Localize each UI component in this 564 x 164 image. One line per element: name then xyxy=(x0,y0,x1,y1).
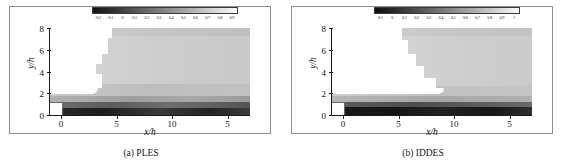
x-axis-label: x/h xyxy=(332,127,532,137)
y-tick: 8 xyxy=(329,28,333,29)
y-tick-label: 8 xyxy=(322,24,327,34)
y-tick: 2 xyxy=(329,93,333,94)
y-tick-label: 4 xyxy=(40,68,45,78)
x-axis-label: x/h xyxy=(50,127,250,137)
y-tick: 4 xyxy=(329,72,333,73)
wall-band xyxy=(332,107,532,115)
wall-band xyxy=(50,108,250,115)
field-core-region xyxy=(50,54,102,64)
x-tick xyxy=(228,115,229,119)
step-geometry-block xyxy=(50,102,63,115)
y-axis-label: y/h xyxy=(26,57,36,69)
colorbar-tick: 0.9 xyxy=(499,15,504,21)
colorbar-tick: 0.6 xyxy=(463,15,468,21)
colorbar-tick: 0 xyxy=(121,15,123,21)
x-tick xyxy=(510,115,511,119)
x-tick xyxy=(61,115,62,119)
y-tick-label: 6 xyxy=(322,46,327,56)
y-tick-label: 0 xyxy=(322,111,327,121)
panel-caption-ples: (a) PLES xyxy=(0,148,282,158)
y-tick-label: 2 xyxy=(322,89,327,99)
colorbar-tick: 0.2 xyxy=(144,15,149,21)
colorbar-tick: 0.1 xyxy=(132,15,137,21)
colorbar-tick: 0.1 xyxy=(402,15,407,21)
step-geometry-block xyxy=(332,102,345,115)
colorbar-gradient xyxy=(374,7,520,14)
colorbar-tick: 0.3 xyxy=(157,15,162,21)
field-core-region xyxy=(332,54,416,66)
y-tick: 8 xyxy=(47,28,51,29)
y-tick-label: 8 xyxy=(40,24,45,34)
colorbar-tick: 0.3 xyxy=(426,15,431,21)
y-tick-label: 6 xyxy=(40,46,45,56)
colorbar-tick: 0.4 xyxy=(439,15,444,21)
y-tick: 0 xyxy=(47,115,51,116)
x-tick xyxy=(117,115,118,119)
colorbar-tick: 0.7 xyxy=(475,15,480,21)
x-tick xyxy=(454,115,455,119)
panel-iddes: -0.1 0 0.1 0.2 0.3 0.4 0.5 0.6 0.7 0.8 0… xyxy=(282,0,564,164)
field-core-region xyxy=(332,78,436,88)
field-core-region xyxy=(332,88,444,94)
x-tick xyxy=(343,115,344,119)
panel-caption-iddes: (b) IDDES xyxy=(282,148,564,158)
y-axis-label: y/h xyxy=(308,57,318,69)
x-tick xyxy=(172,115,173,119)
colorbar-tick: -0.1 xyxy=(377,15,383,21)
colorbar-iddes: -0.1 0 0.1 0.2 0.3 0.4 0.5 0.6 0.7 0.8 0… xyxy=(374,7,520,25)
colorbar-gradient xyxy=(92,7,238,14)
colorbar-tick: 0.5 xyxy=(451,15,456,21)
x-tick xyxy=(399,115,400,119)
colorbar-tick: 0.6 xyxy=(193,15,198,21)
y-tick-label: 4 xyxy=(322,68,327,78)
colorbar-ples: -0.2 -0.1 0 0.1 0.2 0.3 0.4 0.5 0.6 0.7 … xyxy=(92,7,238,25)
colorbar-tick: 0.2 xyxy=(414,15,419,21)
colorbar-tick: 1 xyxy=(513,15,515,21)
colorbar-tick-labels: -0.1 0 0.1 0.2 0.3 0.4 0.5 0.6 0.7 0.8 0… xyxy=(374,15,520,25)
contour-field-ples xyxy=(50,28,250,115)
colorbar-tick: -0.1 xyxy=(107,15,113,21)
colorbar-tick: -0.2 xyxy=(95,15,101,21)
y-tick: 6 xyxy=(329,50,333,51)
colorbar-tick: 0.5 xyxy=(181,15,186,21)
y-tick-label: 0 xyxy=(40,111,45,121)
colorbar-tick-labels: -0.2 -0.1 0 0.1 0.2 0.3 0.4 0.5 0.6 0.7 … xyxy=(92,15,238,25)
colorbar-tick: 0.4 xyxy=(169,15,174,21)
field-core-region xyxy=(332,66,424,78)
y-tick-label: 2 xyxy=(40,89,45,99)
contour-field-iddes xyxy=(332,28,532,115)
colorbar-tick: 0.7 xyxy=(205,15,210,21)
field-core-region xyxy=(332,28,402,40)
field-core-region xyxy=(50,88,98,94)
plot-area-ples: 0 2 4 6 8 0 5 10 5 x/h xyxy=(49,28,250,116)
colorbar-tick: 0.8 xyxy=(217,15,222,21)
colorbar-tick: 0 xyxy=(391,15,393,21)
y-tick: 4 xyxy=(47,72,51,73)
plot-area-iddes: 0 2 4 6 8 0 5 10 5 x/h xyxy=(331,28,532,116)
field-core-region xyxy=(332,40,408,54)
field-core-region xyxy=(50,38,108,54)
colorbar-tick: 0.8 xyxy=(487,15,492,21)
panel-ples: -0.2 -0.1 0 0.1 0.2 0.3 0.4 0.5 0.6 0.7 … xyxy=(0,0,282,164)
y-tick: 6 xyxy=(47,50,51,51)
field-core-region xyxy=(50,64,96,74)
figure-container: -0.2 -0.1 0 0.1 0.2 0.3 0.4 0.5 0.6 0.7 … xyxy=(0,0,564,164)
field-core-region xyxy=(50,74,102,88)
y-tick: 0 xyxy=(329,115,333,116)
y-tick: 2 xyxy=(47,93,51,94)
field-core-region xyxy=(50,28,112,38)
colorbar-tick: 0.9 xyxy=(230,15,235,21)
